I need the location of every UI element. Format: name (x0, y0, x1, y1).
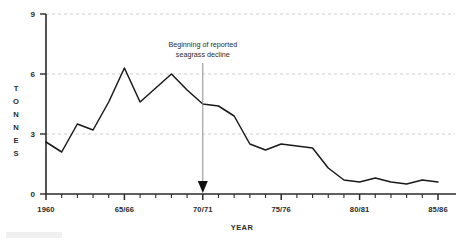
y-axis-title: T O N N E S (13, 84, 19, 158)
page-artifact (6, 232, 62, 238)
gridlines (46, 14, 455, 134)
x-tick-label-1960: 1960 (37, 205, 54, 214)
annotation-arrowhead-icon (198, 181, 208, 193)
x-tick-label-65/66: 65/66 (115, 205, 135, 214)
y-title-letter-2: N (13, 110, 18, 119)
x-tick-label-80/81: 80/81 (350, 205, 370, 214)
y-title-letter-4: E (13, 136, 18, 145)
x-axis-ticks (46, 194, 438, 200)
y-title-letter-1: O (13, 97, 19, 106)
x-tick-label-70/71: 70/71 (193, 205, 213, 214)
x-axis-title: YEAR (231, 223, 254, 232)
chart-canvas: 9 6 3 0 T O N N E S 196065/6670/7175/768… (0, 0, 475, 241)
annotation-text-line1: Beginning of reported (168, 40, 237, 49)
x-axis-tick-labels: 196065/6670/7175/7680/8185/86 (37, 205, 447, 214)
y-tick-label-0: 0 (31, 190, 36, 199)
x-tick-label-85/86: 85/86 (428, 205, 448, 214)
y-title-letter-3: N (13, 123, 18, 132)
y-tick-label-3: 3 (31, 130, 36, 139)
annotation-text-line2: seagrass decline (176, 50, 230, 59)
y-title-letter-5: S (13, 149, 18, 158)
x-tick-label-75/76: 75/76 (271, 205, 291, 214)
y-tick-label-6: 6 (31, 70, 36, 79)
y-axis-ticks (40, 14, 46, 194)
annotation-pointer (198, 63, 208, 193)
y-title-letter-0: T (14, 84, 19, 93)
seagrass-catch-line-chart: 9 6 3 0 T O N N E S 196065/6670/7175/768… (0, 0, 475, 241)
y-tick-label-9: 9 (31, 10, 36, 19)
data-series-line (46, 68, 438, 184)
